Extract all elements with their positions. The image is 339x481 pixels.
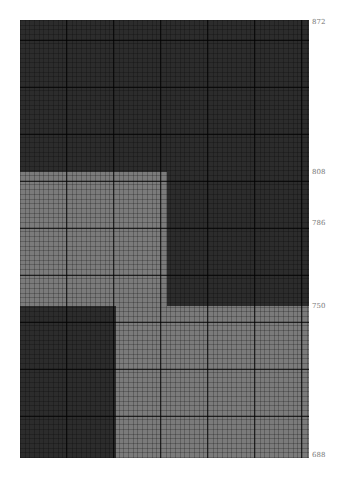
region-gray-middle-left bbox=[20, 172, 167, 306]
region-dark-middle-right bbox=[167, 172, 309, 306]
region-gray-bottom-right bbox=[116, 306, 309, 458]
y-tick-label-688: 688 bbox=[312, 451, 325, 459]
y-tick-label-786: 786 bbox=[312, 219, 325, 227]
y-tick-label-872: 872 bbox=[312, 18, 325, 26]
chart-plot-area bbox=[20, 20, 309, 458]
y-tick-label-750: 750 bbox=[312, 302, 325, 310]
region-dark-bottom-left bbox=[20, 306, 116, 458]
y-tick-label-808: 808 bbox=[312, 168, 325, 176]
